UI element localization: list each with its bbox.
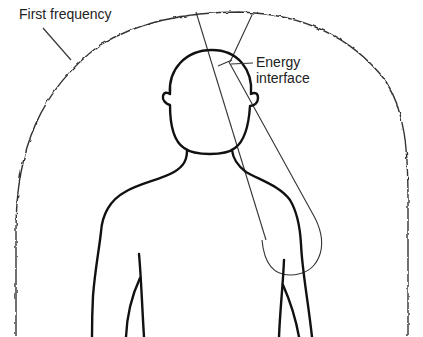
energy-interface-leader (231, 63, 253, 64)
energy-cone (196, 12, 322, 275)
field-boundary (16, 12, 408, 337)
first-frequency-label: First frequency (19, 6, 112, 22)
energy-interface-label-line2: interface (256, 70, 310, 86)
energy-interface-label-line1: Energy (256, 54, 310, 70)
diagram-canvas (0, 0, 423, 337)
first-frequency-leader (43, 28, 71, 60)
energy-interface-label: Energy interface (256, 54, 310, 86)
human-figure (92, 50, 312, 337)
